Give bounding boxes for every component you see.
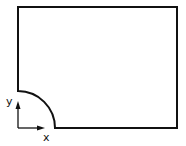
y-axis-arrow-icon (16, 101, 21, 109)
x-axis-label: x (43, 131, 50, 144)
x-axis-arrow-icon (37, 126, 45, 131)
coordinate-axes (16, 101, 46, 131)
y-axis-label: y (6, 95, 13, 108)
plate-diagram: x y (0, 0, 186, 146)
plate-outline (18, 7, 177, 128)
